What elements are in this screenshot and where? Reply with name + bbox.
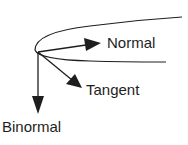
lower-curve-branch xyxy=(35,50,166,62)
binormal-arrow-icon xyxy=(32,52,44,114)
binormal-label: Binormal xyxy=(2,119,61,134)
tangent-arrow-icon xyxy=(38,52,82,88)
normal-arrow-icon xyxy=(38,38,101,52)
frenet-frame-diagram: Normal Tangent Binormal xyxy=(0,0,188,145)
normal-label: Normal xyxy=(107,35,155,50)
tangent-label: Tangent xyxy=(86,82,139,97)
